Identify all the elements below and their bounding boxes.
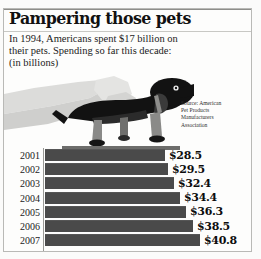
bar-category-label: 2007 [4, 235, 40, 246]
bar-value-label: $38.5 [197, 220, 230, 233]
bar-value-label: $32.4 [178, 177, 211, 190]
chart-row: 2005$36.3 [4, 206, 251, 219]
hand-petting-dachshund-icon [4, 66, 194, 152]
bar-category-label: 2005 [4, 207, 40, 218]
source-line-2: Pet Products [181, 107, 251, 114]
bar-category-label: 2004 [4, 193, 40, 204]
bar-chart: 2001$28.52002$29.52003$32.42004$34.42005… [4, 148, 251, 251]
bar [45, 163, 168, 175]
source-note: Source: American Pet Products Manufactur… [181, 100, 251, 129]
deck-text: In 1994, Americans spent $17 billion on … [9, 33, 195, 70]
bar [45, 177, 174, 189]
chart-row: 2001$28.5 [4, 149, 251, 162]
bar-value-label: $40.8 [204, 234, 237, 247]
source-line-1: Source: American [181, 100, 251, 107]
chart-row: 2002$29.5 [4, 163, 251, 176]
bar-value-label: $29.5 [172, 163, 205, 176]
title-divider [4, 31, 251, 32]
bar-value-label: $28.5 [169, 149, 202, 162]
chart-row: 2004$34.4 [4, 192, 251, 205]
bar-value-label: $36.3 [190, 205, 223, 218]
source-line-4: Association [181, 122, 251, 129]
bar [45, 220, 193, 232]
page-title: Pampering those pets [9, 9, 191, 28]
chart-row: 2007$40.8 [4, 234, 251, 247]
chart-row: 2006$38.5 [4, 220, 251, 233]
bar-category-label: 2003 [4, 178, 40, 189]
bar-value-label: $34.4 [184, 191, 217, 204]
bar-category-label: 2001 [4, 150, 40, 161]
deck-line-2: their pets. Spending so far this decade: [9, 45, 195, 57]
chart-row: 2003$32.4 [4, 177, 251, 190]
deck-line-1: In 1994, Americans spent $17 billion on [9, 33, 195, 45]
bar [45, 149, 165, 161]
bar [45, 206, 186, 218]
bar [45, 192, 180, 204]
bar [45, 234, 200, 246]
bar-category-label: 2002 [4, 164, 40, 175]
infographic-panel: Pampering those pets In 1994, Americans … [0, 0, 261, 259]
dog-illustration [4, 66, 194, 152]
bar-category-label: 2006 [4, 221, 40, 232]
source-line-3: Manufacturers [181, 114, 251, 121]
